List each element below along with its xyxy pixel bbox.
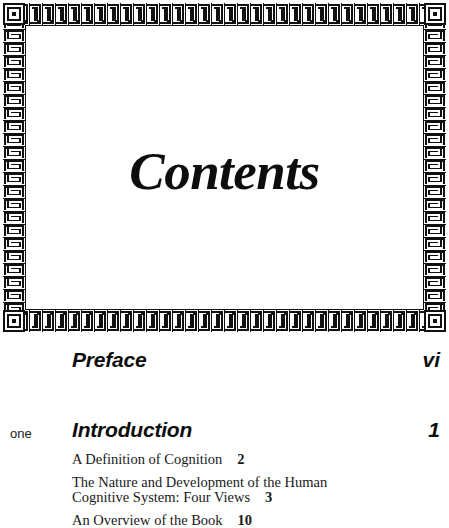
toc-entry-page-number: vi (422, 348, 440, 372)
toc-section-page-number: 2 (222, 451, 244, 467)
toc-section-title: An Overview of the Book (72, 512, 223, 528)
toc-section-page-number: 3 (250, 489, 272, 505)
page-title: Contents (129, 145, 319, 198)
chapter-number-word: one (10, 426, 32, 441)
toc-chapter-title: Introduction (72, 418, 192, 442)
table-of-contents: Preface vi one Introduction 1 A Definiti… (0, 340, 449, 528)
toc-section-item[interactable]: The Nature and Development of the Human … (72, 475, 362, 506)
toc-chapter-one[interactable]: one Introduction 1 (0, 418, 449, 454)
decorative-frame-plate: Contents (3, 3, 446, 332)
toc-entry-preface[interactable]: Preface vi (0, 340, 449, 374)
toc-section-list: A Definition of Cognition2 The Nature an… (72, 452, 449, 528)
title-plate-inner: Contents (29, 29, 420, 306)
toc-section-item[interactable]: A Definition of Cognition2 (72, 452, 362, 468)
toc-entry-title: Preface (72, 348, 147, 372)
toc-chapter-page-number: 1 (428, 418, 440, 442)
toc-section-title: A Definition of Cognition (72, 451, 222, 467)
toc-section-item[interactable]: An Overview of the Book10 (72, 513, 362, 528)
toc-section-page-number: 10 (223, 512, 253, 528)
toc-section-title: The Nature and Development of the Human … (72, 474, 327, 506)
